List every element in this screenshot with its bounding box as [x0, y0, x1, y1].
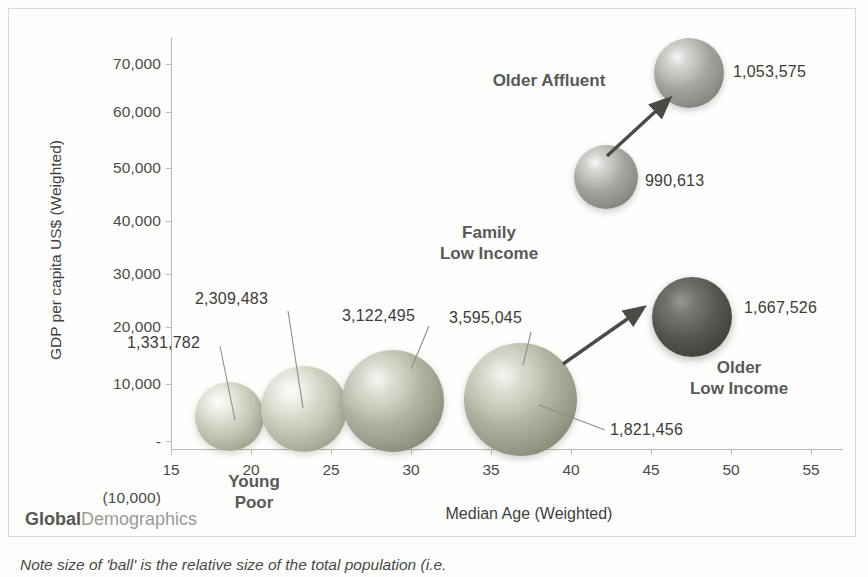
- x-tick-mark-45: [651, 449, 652, 455]
- brand-light-text: Demographics: [81, 509, 197, 529]
- y-tick-label-0: -: [67, 433, 161, 451]
- brand-bold-text: Global: [25, 509, 81, 529]
- group-label-family-low-income: Family Low Income: [404, 223, 574, 264]
- x-tick-label-40: 40: [549, 461, 593, 479]
- y-axis-line: [171, 37, 172, 450]
- y-tick-label-10000: 10,000: [67, 375, 161, 393]
- y-tick-mark-0: [166, 441, 171, 442]
- y-tick-mark-50000: [166, 168, 171, 169]
- bubble-older-low-income-1667526[interactable]: [652, 277, 732, 357]
- group-label-older-low-line1: Older: [649, 358, 829, 379]
- bubble-family-low-income-3595045[interactable]: [464, 343, 577, 456]
- x-tick-mark-55: [811, 449, 812, 455]
- x-tick-label-45: 45: [629, 461, 673, 479]
- x-tick-label-35: 35: [469, 461, 513, 479]
- group-label-older-low-line2: Low Income: [649, 379, 829, 400]
- group-label-young-poor: Young Poor: [184, 472, 324, 513]
- y-axis-title: GDP per capita US$ (Weighted): [47, 85, 65, 415]
- brand-logo: GlobalDemographics: [25, 509, 197, 530]
- chart-page: 70,000 60,000 50,000 40,000 30,000 20,00…: [0, 0, 868, 577]
- x-tick-mark-50: [731, 449, 732, 455]
- x-tick-mark-35: [491, 449, 492, 455]
- group-label-young-line2: Poor: [184, 493, 324, 514]
- y-tick-mark-40000: [166, 221, 171, 222]
- x-tick-mark-25: [331, 449, 332, 455]
- y-tick-label-30000: 30,000: [67, 265, 161, 283]
- value-label-1667526: 1,667,526: [744, 299, 817, 317]
- chart-frame: 70,000 60,000 50,000 40,000 30,000 20,00…: [8, 8, 856, 537]
- x-tick-label-50: 50: [709, 461, 753, 479]
- group-label-older-low-income: Older Low Income: [649, 358, 829, 399]
- x-tick-mark-40: [571, 449, 572, 455]
- y-tick-label-group: 70,000 60,000 50,000 40,000 30,000 20,00…: [61, 9, 161, 538]
- y-tick-mark-20000: [166, 327, 171, 328]
- y-tick-label-70000: 70,000: [67, 55, 161, 73]
- y-tick-mark-10000: [166, 384, 171, 385]
- x-axis-title: Median Age (Weighted): [389, 505, 669, 523]
- arrow-older-low-income: [563, 308, 643, 364]
- y-tick-mark-70000: [166, 64, 171, 65]
- group-label-family-line1: Family: [404, 223, 574, 244]
- value-label-1821456: 1,821,456: [610, 421, 683, 439]
- group-label-young-line1: Young: [184, 472, 324, 493]
- bubble-young-poor-2309483[interactable]: [261, 366, 347, 452]
- bubble-family-low-income-3122495[interactable]: [342, 350, 444, 452]
- y-tick-label-60000: 60,000: [67, 103, 161, 121]
- value-label-3595045: 3,595,045: [449, 309, 522, 327]
- value-label-1331782: 1,331,782: [127, 334, 200, 352]
- bubble-young-poor-1331782[interactable]: [195, 382, 264, 451]
- bubble-older-affluent-990613[interactable]: [574, 145, 638, 209]
- value-label-1053575: 1,053,575: [733, 63, 806, 81]
- y-tick-label-50000: 50,000: [67, 159, 161, 177]
- group-label-older-affluent: Older Affluent: [459, 71, 639, 92]
- footnote-text: Note size of 'ball' is the relative size…: [20, 556, 860, 574]
- value-label-990613: 990,613: [645, 172, 704, 190]
- y-tick-mark-30000: [166, 274, 171, 275]
- y-tick-label-neg10000: (10,000): [67, 489, 161, 507]
- x-tick-mark-15: [171, 449, 172, 455]
- x-tick-mark-30: [411, 449, 412, 455]
- bubble-older-affluent-1053575[interactable]: [654, 38, 724, 108]
- value-label-2309483: 2,309,483: [195, 290, 268, 308]
- x-tick-label-30: 30: [389, 461, 433, 479]
- x-tick-label-55: 55: [789, 461, 833, 479]
- x-tick-mark-20: [251, 449, 252, 455]
- group-label-family-line2: Low Income: [404, 244, 574, 265]
- value-label-3122495: 3,122,495: [342, 307, 415, 325]
- y-tick-label-40000: 40,000: [67, 212, 161, 230]
- y-tick-mark-60000: [166, 112, 171, 113]
